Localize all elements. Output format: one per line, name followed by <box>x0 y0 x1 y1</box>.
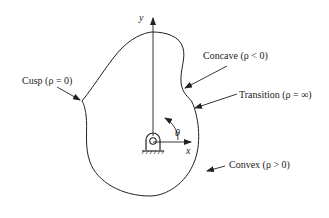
concave-label: Concave (ρ < 0) <box>203 50 268 62</box>
transition-label: Transition (ρ = ∞) <box>239 89 312 101</box>
x-axis-label: x <box>185 145 191 156</box>
cusp-arrow <box>57 87 80 100</box>
cusp-label: Cusp (ρ = 0) <box>22 75 72 87</box>
convex-arrow <box>207 166 225 171</box>
cam-profile-curve <box>82 32 199 196</box>
y-axis-label: y <box>138 12 144 23</box>
cam-diagram: y x θ Cusp (ρ = 0) Concave (ρ < 0) Trans… <box>0 0 329 218</box>
convex-label: Convex (ρ > 0) <box>229 159 290 171</box>
transition-arrow <box>195 94 237 108</box>
concave-arrow <box>185 66 227 88</box>
theta-label: θ <box>175 127 180 138</box>
pivot-support-icon <box>142 133 164 154</box>
